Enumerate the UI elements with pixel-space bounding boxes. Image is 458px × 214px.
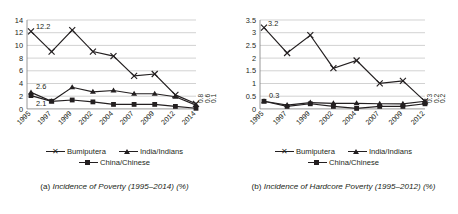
x-tick-label: 1995 bbox=[15, 109, 33, 127]
y-axis-ticks-a: 14 12 10 8 6 4 2 0 bbox=[15, 16, 23, 114]
data-label: 0.3 bbox=[269, 91, 279, 100]
x-tick-label: 2007 bbox=[363, 109, 381, 127]
point-annotations-a: 12.2 2.6 2.1 0.8 0.6 0.1 bbox=[36, 22, 217, 108]
cross-marker-icon: ✕ bbox=[46, 147, 65, 156]
triangle-marker-icon bbox=[119, 147, 138, 156]
chart-panel-b: 3.5 3 2.5 2 1.5 1 0.5 0 bbox=[229, 0, 458, 214]
chart-panel-a: 14 12 10 8 6 4 2 0 bbox=[0, 0, 229, 214]
y-tick-label: 1 bbox=[252, 79, 256, 88]
legend-label: Bumiputera bbox=[67, 146, 106, 157]
legend-item-bumiputera[interactable]: ✕ Bumiputera bbox=[275, 146, 335, 157]
x-tick-label: 1999 bbox=[56, 109, 74, 127]
legend-a: ✕ Bumiputera India/Indians China/Chinese bbox=[0, 146, 229, 168]
caption-text: Incidence of Poverty (1995–2014) (%) bbox=[52, 182, 188, 191]
y-tick-label: 4 bbox=[19, 79, 23, 88]
legend-item-bumiputera[interactable]: ✕ Bumiputera bbox=[46, 146, 106, 157]
caption-a: (a) Incidence of Poverty (1995–2014) (%) bbox=[0, 182, 229, 191]
data-label: 12.2 bbox=[36, 22, 50, 31]
legend-label: China/Chinese bbox=[100, 157, 150, 168]
line-chart-b: 3.5 3 2.5 2 1.5 1 0.5 0 bbox=[229, 6, 458, 138]
x-tick-label: 2004 bbox=[340, 109, 358, 127]
square-marker-icon bbox=[308, 158, 327, 167]
y-tick-label: 8 bbox=[19, 54, 23, 63]
y-tick-label: 1.5 bbox=[246, 66, 256, 75]
end-data-label: 0.1 bbox=[210, 94, 217, 103]
cross-markers-a bbox=[28, 27, 199, 107]
y-tick-label: 3.5 bbox=[246, 16, 256, 25]
x-tick-label: 2004 bbox=[97, 109, 115, 127]
y-tick-label: 2 bbox=[19, 92, 23, 101]
caption-b: (b) Incidence of Hardcore Poverty (1995–… bbox=[229, 182, 458, 191]
legend-item-india[interactable]: India/Indians bbox=[348, 146, 412, 157]
series-china-a bbox=[29, 93, 199, 111]
x-tick-label: 1995 bbox=[248, 109, 266, 127]
x-axis-ticks-b: 1995 1997 1999 2002 2004 2007 2009 2012 bbox=[248, 109, 427, 127]
legend-row-primary: ✕ Bumiputera India/Indians bbox=[0, 146, 229, 157]
caption-id: (a) bbox=[40, 182, 50, 191]
y-tick-label: 12 bbox=[15, 28, 23, 37]
x-tick-label: 2014 bbox=[180, 109, 198, 127]
x-axis-ticks-a: 1995 1997 1999 2002 2004 2007 2009 2012 … bbox=[15, 109, 198, 127]
y-tick-label: 2.5 bbox=[246, 41, 256, 50]
legend-label: India/Indians bbox=[369, 146, 412, 157]
legend-b: ✕ Bumiputera India/Indians China/Chinese bbox=[229, 146, 458, 168]
x-tick-label: 1999 bbox=[294, 109, 312, 127]
gridlines-b bbox=[260, 20, 425, 109]
x-tick-label: 2012 bbox=[159, 109, 177, 127]
y-tick-label: 14 bbox=[15, 16, 23, 25]
data-label: 2.6 bbox=[36, 82, 46, 91]
data-label: 2.1 bbox=[36, 99, 46, 108]
y-tick-label: 10 bbox=[15, 41, 23, 50]
triangle-marker-icon bbox=[348, 147, 367, 156]
x-tick-label: 2007 bbox=[118, 109, 136, 127]
x-tick-label: 2009 bbox=[387, 109, 405, 127]
square-markers-a bbox=[29, 93, 199, 111]
y-tick-label: 6 bbox=[19, 66, 23, 75]
y-tick-label: 2 bbox=[252, 54, 256, 63]
x-tick-label: 2012 bbox=[409, 109, 427, 127]
data-label: 3.2 bbox=[268, 19, 278, 28]
series-bumiputera-b bbox=[261, 25, 428, 105]
square-marker-icon bbox=[79, 158, 98, 167]
legend-row-secondary: China/Chinese bbox=[229, 157, 458, 168]
x-tick-label: 2002 bbox=[317, 109, 335, 127]
y-tick-label: 0.5 bbox=[246, 92, 256, 101]
y-tick-label: 3 bbox=[252, 28, 256, 37]
x-tick-label: 2009 bbox=[138, 109, 156, 127]
x-tick-label: 2002 bbox=[77, 109, 95, 127]
plot-area-b: 3.5 3 2.5 2 1.5 1 0.5 0 bbox=[229, 6, 458, 138]
legend-item-india[interactable]: India/Indians bbox=[119, 146, 183, 157]
legend-label: China/Chinese bbox=[329, 157, 379, 168]
legend-row-primary: ✕ Bumiputera India/Indians bbox=[229, 146, 458, 157]
legend-label: India/Indians bbox=[140, 146, 183, 157]
end-data-label: 0.2 bbox=[439, 94, 446, 103]
series-bumiputera-a bbox=[28, 27, 199, 107]
x-tick-label: 1997 bbox=[271, 109, 289, 127]
legend-label: Bumiputera bbox=[296, 146, 335, 157]
caption-id: (b) bbox=[251, 182, 261, 191]
plot-area-a: 14 12 10 8 6 4 2 0 bbox=[0, 6, 229, 138]
y-axis-ticks-b: 3.5 3 2.5 2 1.5 1 0.5 0 bbox=[246, 16, 256, 114]
legend-row-secondary: China/Chinese bbox=[0, 157, 229, 168]
cross-marker-icon: ✕ bbox=[275, 147, 294, 156]
legend-item-china[interactable]: China/Chinese bbox=[308, 157, 379, 168]
legend-item-china[interactable]: China/Chinese bbox=[79, 157, 150, 168]
x-tick-label: 1997 bbox=[35, 109, 53, 127]
line-chart-a: 14 12 10 8 6 4 2 0 bbox=[0, 6, 229, 138]
figure-container: 14 12 10 8 6 4 2 0 bbox=[0, 0, 458, 214]
caption-text: Incidence of Hardcore Poverty (1995–2012… bbox=[264, 182, 436, 191]
